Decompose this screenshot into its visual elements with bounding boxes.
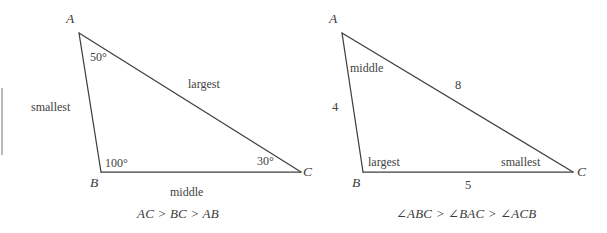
right-side-length-bc: 5 — [465, 179, 471, 192]
right-side-label-ab-descriptor: middle — [350, 62, 383, 74]
left-vertex-label-a: A — [66, 12, 74, 26]
right-triangle-caption: ∠ABC > ∠BAC > ∠ACB — [396, 207, 536, 220]
left-side-label-ab: smallest — [31, 101, 70, 113]
left-triangle-outline — [79, 33, 301, 172]
right-angle-label-b-descriptor: largest — [368, 156, 400, 168]
right-side-length-ab: 4 — [332, 101, 338, 114]
left-angle-label-b: 100° — [105, 157, 128, 169]
left-vertex-label-c: C — [303, 165, 312, 179]
left-side-label-ac: largest — [188, 78, 220, 90]
right-angle-label-c-descriptor: smallest — [501, 156, 540, 168]
left-vertex-label-b: B — [90, 176, 98, 190]
geometry-figure: A B C 50° 100° 30° smallest largest midd… — [0, 0, 607, 233]
right-side-length-ac: 8 — [455, 79, 461, 92]
right-vertex-label-c: C — [577, 165, 586, 179]
right-triangle-outline — [342, 33, 573, 172]
triangle-line-art — [0, 0, 607, 233]
left-angle-label-c: 30° — [257, 155, 274, 167]
right-vertex-label-b: B — [352, 176, 360, 190]
left-side-label-bc: middle — [170, 186, 203, 198]
left-triangle-caption: AC > BC > AB — [137, 207, 219, 220]
left-angle-label-a: 50° — [90, 51, 107, 63]
right-vertex-label-a: A — [329, 12, 337, 26]
